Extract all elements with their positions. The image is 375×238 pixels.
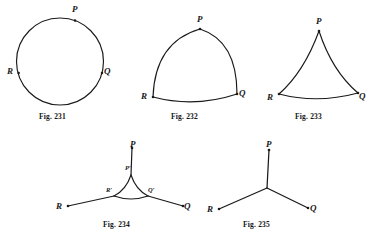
ray-to-p [131,148,132,175]
segment-to-p [267,150,269,188]
vertex-label-r: R [7,67,13,76]
figure-231: P R Q Fig. 231 [0,0,130,130]
circle-outline [17,18,104,105]
point-marker-r [67,205,70,208]
point-marker-r [152,96,155,99]
figure-231-caption: Fig. 231 [39,112,66,121]
vertex-label-r: R [267,93,273,102]
vertex-label-r: R [207,205,213,214]
vertex-label-r: R [56,202,62,211]
vertex-label-r: R [141,92,147,101]
figure-233-caption: Fig. 233 [295,112,322,121]
point-marker-q [101,72,104,75]
arc-qp [319,31,358,93]
figure-232-caption: Fig. 232 [171,112,198,121]
vertex-label-p: P [266,140,272,149]
arc-qp [200,29,237,94]
point-marker-p [74,19,77,22]
arc-pr [279,31,319,94]
figure-231-drawing [0,0,130,118]
inner-arc-rq [114,196,148,199]
inner-vertex-label-q-prime: Q′ [148,187,155,194]
figure-235-caption: Fig. 235 [243,220,270,229]
inner-vertex-label-p-prime: P′ [125,165,131,172]
arc-rq [153,94,237,102]
figure-234-caption: Fig. 234 [103,220,130,229]
figure-plate: P R Q Fig. 231 P R Q Fig. 232 P R Q [0,0,375,238]
vertex-label-q: Q [359,92,366,101]
figure-232: P R Q Fig. 232 [133,0,258,130]
vertex-label-q: Q [310,204,317,213]
vertex-label-p: P [197,15,203,24]
segment-to-q [267,188,308,208]
figure-234: P R Q P′ R′ Q′ Fig. 234 [55,140,205,238]
figure-233: P R Q Fig. 233 [262,0,375,130]
point-marker-p [268,149,271,152]
point-marker-r [278,93,281,96]
segment-to-r [219,188,267,209]
figure-235-drawing [205,140,340,238]
point-marker-p [318,30,321,33]
vertex-label-p: P [72,5,78,14]
arc-rq [279,93,358,99]
point-marker-q [236,93,239,96]
vertex-label-q: Q [104,67,111,76]
point-marker-q [307,207,310,210]
ray-to-r [68,196,114,206]
vertex-label-q: Q [184,202,191,211]
point-marker-r [218,208,221,211]
figure-235: P R Q Fig. 235 [205,140,340,238]
vertex-label-q: Q [239,89,246,98]
figure-232-drawing [133,0,258,118]
vertex-label-p: P [130,140,136,149]
point-marker-p [199,28,202,31]
arc-pr [153,29,200,97]
inner-arc-pr [114,175,131,196]
point-marker-r [17,72,20,75]
vertex-label-p: P [316,17,322,26]
inner-vertex-label-r-prime: R′ [106,187,112,194]
inner-arc-qp [131,175,148,196]
ray-to-q [148,196,183,206]
